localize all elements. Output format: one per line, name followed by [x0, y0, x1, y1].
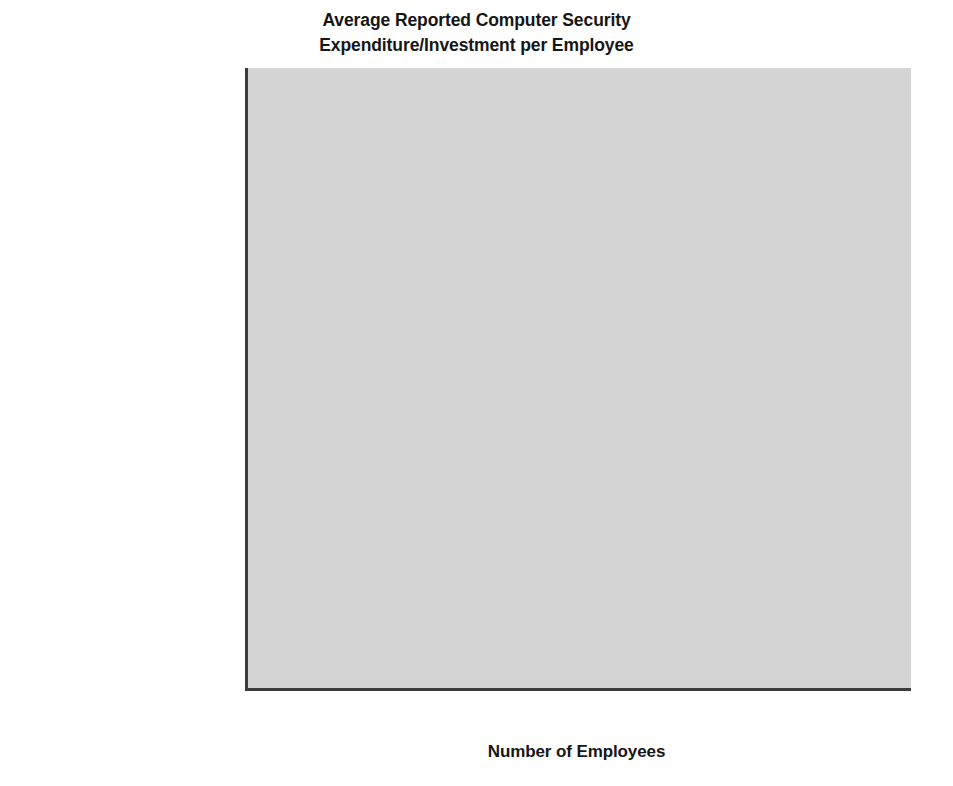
x-axis-title: Number of Employees	[245, 742, 908, 762]
chart-title: Average Reported Computer Security Expen…	[0, 8, 953, 58]
chart-figure: Average Reported Computer Security Expen…	[0, 0, 953, 786]
chart-title-line-1: Average Reported Computer Security	[0, 8, 953, 33]
y-axis-category-labels	[0, 68, 237, 688]
plot-area	[245, 68, 911, 691]
bars-container	[248, 68, 911, 688]
chart-title-line-2: Expenditure/Investment per Employee	[0, 33, 953, 58]
